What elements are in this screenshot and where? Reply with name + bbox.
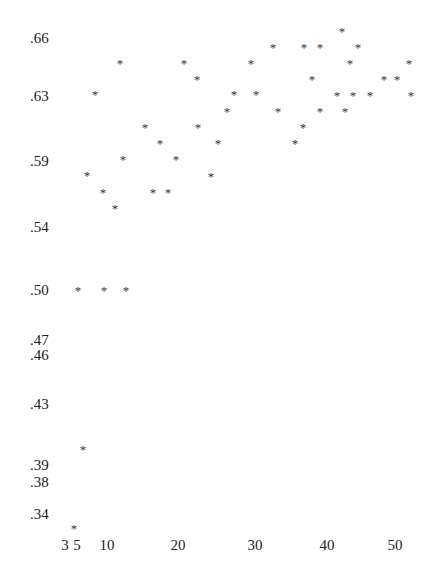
y-tick-label: .34 [30, 507, 49, 522]
asterisk-marker-icon: * [150, 186, 157, 199]
asterisk-marker-icon: * [194, 73, 201, 86]
asterisk-marker-icon: * [406, 57, 413, 70]
asterisk-marker-icon: * [408, 89, 415, 102]
asterisk-marker-icon: * [142, 121, 149, 134]
asterisk-marker-icon: * [270, 41, 277, 54]
asterisk-marker-icon: * [355, 41, 362, 54]
cropped-title-remnant [150, 0, 300, 2]
asterisk-marker-icon: * [275, 105, 282, 118]
asterisk-marker-icon: * [215, 137, 222, 150]
y-tick-label: .54 [30, 220, 49, 235]
asterisk-marker-icon: * [301, 41, 308, 54]
asterisk-marker-icon: * [248, 57, 255, 70]
asterisk-marker-icon: * [317, 105, 324, 118]
asterisk-marker-icon: * [117, 57, 124, 70]
asterisk-marker-icon: * [231, 88, 238, 101]
asterisk-marker-icon: * [334, 89, 341, 102]
asterisk-marker-icon: * [100, 186, 107, 199]
x-tick-label: 40 [320, 538, 335, 553]
y-tick-label: .39 [30, 458, 49, 473]
asterisk-marker-icon: * [224, 105, 231, 118]
asterisk-marker-icon: * [195, 121, 202, 134]
asterisk-marker-icon: * [253, 88, 260, 101]
asterisk-marker-icon: * [120, 153, 127, 166]
y-tick-label: .50 [30, 283, 49, 298]
asterisk-marker-icon: * [80, 443, 87, 456]
asterisk-marker-icon: * [75, 284, 82, 297]
asterisk-marker-icon: * [112, 202, 119, 215]
asterisk-marker-icon: * [300, 121, 307, 134]
y-tick-label: .63 [30, 89, 49, 104]
x-tick-label: 20 [171, 538, 186, 553]
y-tick-label: .38 [30, 475, 49, 490]
x-tick-label: 10 [100, 538, 115, 553]
asterisk-marker-icon: * [157, 137, 164, 150]
x-tick-label: 50 [388, 538, 403, 553]
scatter-chart: .66.63.59.54.50.47.46.43.39.38.34 351020… [0, 0, 438, 576]
y-tick-label: .47 [30, 333, 49, 348]
asterisk-marker-icon: * [123, 284, 130, 297]
asterisk-marker-icon: * [173, 153, 180, 166]
x-tick-label: 5 [73, 538, 81, 553]
x-tick-label: 30 [248, 538, 263, 553]
asterisk-marker-icon: * [339, 25, 346, 38]
asterisk-marker-icon: * [71, 522, 78, 535]
asterisk-marker-icon: * [309, 73, 316, 86]
asterisk-marker-icon: * [92, 88, 99, 101]
y-tick-label: .43 [30, 397, 49, 412]
asterisk-marker-icon: * [394, 73, 401, 86]
asterisk-marker-icon: * [350, 89, 357, 102]
x-tick-label: 3 [61, 538, 69, 553]
asterisk-marker-icon: * [381, 73, 388, 86]
asterisk-marker-icon: * [342, 105, 349, 118]
y-tick-label: .66 [30, 31, 49, 46]
asterisk-marker-icon: * [84, 169, 91, 182]
asterisk-marker-icon: * [208, 170, 215, 183]
asterisk-marker-icon: * [292, 137, 299, 150]
y-tick-label: .46 [30, 348, 49, 363]
asterisk-marker-icon: * [347, 57, 354, 70]
asterisk-marker-icon: * [367, 89, 374, 102]
asterisk-marker-icon: * [165, 186, 172, 199]
asterisk-marker-icon: * [101, 284, 108, 297]
asterisk-marker-icon: * [181, 57, 188, 70]
y-tick-label: .59 [30, 154, 49, 169]
asterisk-marker-icon: * [317, 41, 324, 54]
